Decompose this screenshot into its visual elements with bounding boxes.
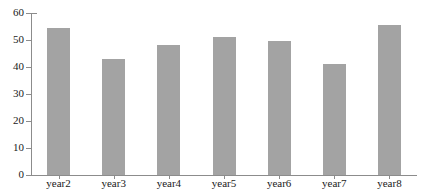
x-tick-label-year8: year8 (361, 177, 417, 190)
bars-layer (31, 13, 417, 175)
x-tick-label-year2: year2 (31, 177, 87, 190)
bar-year8 (378, 25, 401, 175)
bar-year3 (102, 59, 125, 175)
y-tick-label: 30 (0, 88, 24, 99)
y-tick-label: 50 (0, 34, 24, 45)
x-tick-label-year6: year6 (251, 177, 307, 190)
y-tick-label: 20 (0, 115, 24, 126)
bar-year2 (47, 28, 70, 175)
x-tick-label-year3: year3 (86, 177, 142, 190)
x-tick-label-year4: year4 (141, 177, 197, 190)
x-tick-label-year7: year7 (306, 177, 362, 190)
bar-year7 (323, 64, 346, 175)
y-tick-mark (26, 175, 32, 176)
bar-year5 (213, 37, 236, 175)
y-tick-label: 60 (0, 7, 24, 18)
bar-chart: 0102030405060 year2year3year4year5year6y… (0, 0, 424, 192)
y-tick-label: 0 (0, 169, 24, 180)
bar-year4 (157, 45, 180, 175)
y-tick-label: 40 (0, 61, 24, 72)
x-tick-label-year5: year5 (196, 177, 252, 190)
bar-year6 (268, 41, 291, 175)
y-tick-label: 10 (0, 142, 24, 153)
